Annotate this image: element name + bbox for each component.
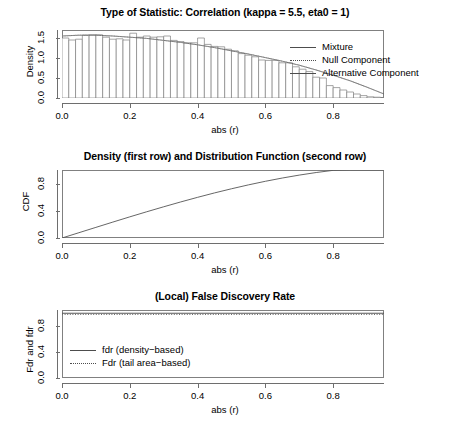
histogram-bar	[170, 40, 177, 98]
histogram-bar	[292, 67, 299, 98]
histogram-bar	[96, 35, 103, 98]
histogram-bar	[109, 39, 116, 98]
x-tick-mark	[62, 384, 63, 388]
y-tick-mark	[56, 38, 60, 39]
legend-line-dotted-icon	[290, 60, 316, 61]
histogram-bar	[367, 97, 374, 98]
histogram-bar	[123, 40, 130, 98]
histogram-bar	[218, 47, 225, 98]
fdr-y-axis-line	[57, 310, 58, 378]
y-tick-label: 0.8	[35, 170, 46, 196]
histogram-bar	[252, 57, 259, 98]
histogram-bar	[89, 35, 96, 98]
cdf-panel: Density (first row) and Distribution Fun…	[0, 145, 450, 285]
y-tick-mark	[56, 211, 60, 212]
fdr-y-axis-title: Fdr and fdr	[24, 307, 35, 393]
cdf-panel-title: Density (first row) and Distribution Fun…	[0, 150, 450, 162]
histogram-bar	[150, 37, 157, 98]
y-tick-mark	[56, 98, 60, 99]
x-tick-label: 0.2	[115, 390, 145, 401]
y-tick-mark	[56, 378, 60, 379]
histogram-bar	[69, 40, 76, 98]
x-tick-mark	[265, 104, 266, 108]
y-tick-label: 0.4	[35, 339, 46, 365]
histogram-bar	[157, 37, 164, 98]
cdf-x-axis-title: abs (r)	[0, 264, 450, 275]
legend-label-alternative-component: Alternative Component	[322, 67, 419, 78]
histogram-bar	[326, 86, 333, 98]
x-tick-label: 0.8	[318, 110, 348, 121]
x-tick-mark	[198, 384, 199, 388]
histogram-bar	[245, 55, 252, 98]
cdf-y-axis-title: CDF	[20, 177, 31, 227]
histogram-bar	[347, 92, 354, 98]
histogram-bar	[103, 37, 110, 98]
histogram-bar	[130, 33, 137, 98]
x-tick-mark	[198, 244, 199, 248]
x-tick-label: 0.0	[47, 110, 77, 121]
y-tick-label: 0.0	[35, 225, 46, 251]
legend-label-fdr-density: fdr (density−based)	[102, 344, 184, 355]
histogram-bar	[320, 78, 327, 98]
x-tick-label: 0.4	[183, 390, 213, 401]
histogram-bar	[76, 39, 83, 98]
y-tick-mark	[56, 184, 60, 185]
x-tick-mark	[62, 244, 63, 248]
x-tick-mark	[198, 104, 199, 108]
x-tick-mark	[333, 384, 334, 388]
cdf-series-line	[62, 170, 384, 238]
x-tick-label: 0.6	[250, 110, 280, 121]
y-tick-label: 0.0	[35, 365, 46, 391]
fdr-panel: (Local) False Discovery Rate Fdr and fdr…	[0, 285, 450, 431]
y-tick-mark	[56, 238, 60, 239]
histogram-bar	[198, 38, 205, 98]
y-tick-label: 0.8	[35, 313, 46, 339]
histogram-bar	[353, 94, 360, 98]
figure-page: Type of Statistic: Correlation (kappa = …	[0, 0, 450, 431]
histogram-bar	[360, 96, 367, 98]
density-x-axis-line	[62, 103, 384, 104]
cdf-curve-canvas	[62, 170, 384, 238]
density-x-axis-title: abs (r)	[0, 124, 450, 135]
histogram-bar	[279, 63, 286, 98]
histogram-bar	[286, 63, 293, 98]
x-tick-label: 0.8	[318, 250, 348, 261]
x-tick-label: 0.2	[115, 110, 145, 121]
histogram-bar	[116, 39, 123, 98]
histogram-bar	[306, 72, 313, 98]
histogram-bar	[333, 88, 340, 98]
cdf-y-axis-line	[57, 170, 58, 238]
x-tick-label: 0.4	[183, 110, 213, 121]
y-tick-mark	[56, 78, 60, 79]
legend-line-solid-icon	[70, 350, 96, 351]
histogram-bar	[82, 35, 89, 98]
x-tick-label: 0.6	[250, 390, 280, 401]
legend-label-mixture: Mixture	[322, 41, 353, 52]
density-y-axis-line	[57, 30, 58, 98]
histogram-bar	[313, 77, 320, 98]
histogram-bar	[272, 60, 279, 98]
y-tick-mark	[56, 326, 60, 327]
x-tick-label: 0.0	[47, 250, 77, 261]
histogram-bar	[62, 38, 69, 98]
cdf-plot-area	[62, 170, 384, 238]
y-tick-mark	[56, 58, 60, 59]
x-tick-label: 0.4	[183, 250, 213, 261]
histogram-bar	[191, 43, 198, 98]
x-tick-mark	[130, 244, 131, 248]
x-tick-mark	[130, 384, 131, 388]
x-tick-mark	[265, 384, 266, 388]
x-tick-mark	[333, 244, 334, 248]
x-tick-mark	[265, 244, 266, 248]
histogram-bar	[265, 60, 272, 98]
histogram-bar	[231, 51, 238, 98]
x-tick-label: 0.8	[318, 390, 348, 401]
legend-label-null-component: Null Component	[322, 54, 390, 65]
histogram-bar	[184, 43, 191, 98]
fdr-panel-title: (Local) False Discovery Rate	[0, 290, 450, 302]
histogram-bar	[238, 54, 245, 98]
histogram-bar	[177, 42, 184, 98]
legend-line-dotted-icon	[70, 363, 96, 364]
density-panel-title: Type of Statistic: Correlation (kappa = …	[0, 6, 450, 18]
fdr-x-axis-title: abs (r)	[0, 404, 450, 415]
